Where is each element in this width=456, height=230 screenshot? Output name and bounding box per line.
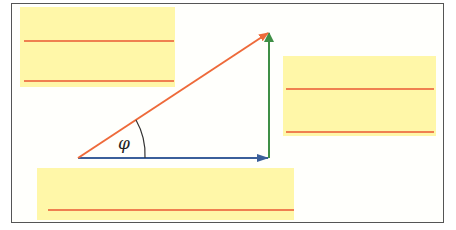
vector-diagram [0, 0, 456, 230]
angle-arc [136, 120, 145, 158]
angle-label: φ [118, 133, 130, 153]
hypotenuse-vector [78, 33, 268, 158]
